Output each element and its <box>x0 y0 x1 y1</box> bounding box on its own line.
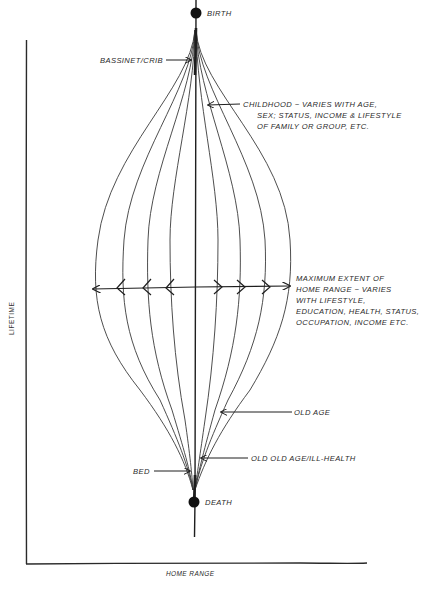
maximum-line-4: EDUCATION, HEALTH, STATUS, <box>296 306 419 317</box>
childhood-line-2: SEX; STATUS, INCOME & LIFESTYLE <box>243 110 402 121</box>
maximum-extent-arrows <box>93 279 290 295</box>
x-axis-line <box>26 563 367 564</box>
death-label: DEATH <box>205 497 232 508</box>
maximum-line-2: HOME RANGE ~ VARIES <box>296 284 419 295</box>
childhood-arrow <box>208 104 240 105</box>
childhood-line-3: OF FAMILY OR GROUP, ETC. <box>243 121 402 132</box>
old-old-age-label: OLD OLD AGE/ILL-HEALTH <box>251 453 356 464</box>
y-axis-line <box>26 40 27 564</box>
maximum-extent-label: MAXIMUM EXTENT OF HOME RANGE ~ VARIES WI… <box>296 273 419 328</box>
maximum-line-3: WITH LIFESTYLE, <box>296 295 419 306</box>
bassinet-label: BASSINET/CRIB <box>100 55 163 66</box>
childhood-line-1: CHILDHOOD ~ VARIES WITH AGE, <box>243 99 402 110</box>
birth-node <box>191 8 202 19</box>
bed-label: BED <box>133 466 150 477</box>
maximum-line-1: MAXIMUM EXTENT OF <box>296 273 419 284</box>
birth-label: BIRTH <box>207 8 232 19</box>
central-lifeline <box>195 0 197 537</box>
childhood-label: CHILDHOOD ~ VARIES WITH AGE, SEX; STATUS… <box>243 99 402 132</box>
x-axis-label: HOME RANGE <box>166 568 214 579</box>
y-axis-label: LIFETIME <box>8 302 15 335</box>
death-node <box>189 497 200 508</box>
old-age-label: OLD AGE <box>294 407 330 418</box>
maximum-line-5: OCCUPATION, INCOME ETC. <box>296 317 419 328</box>
